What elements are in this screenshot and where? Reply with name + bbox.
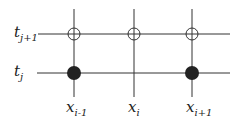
row-label-sub: j+1: [20, 32, 38, 43]
col-label-i+1: xi+1: [186, 100, 212, 118]
col-label-i-1: xi-1: [66, 100, 87, 118]
filled-node-icon: [185, 66, 199, 80]
col-label-sub: i+1: [194, 107, 212, 118]
col-label-sub: i: [136, 107, 139, 118]
col-label-i: xi: [128, 100, 140, 118]
col-label-sub: i-1: [74, 107, 87, 118]
filled-node-icon: [67, 66, 81, 80]
row-label-sub: j: [20, 71, 23, 82]
row-label-j: tj: [14, 64, 23, 82]
row-label-j+1: tj+1: [14, 25, 38, 43]
